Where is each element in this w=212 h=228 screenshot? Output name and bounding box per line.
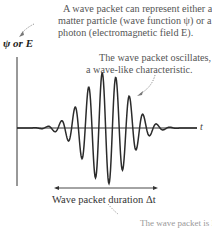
pointer-arrow-icon <box>140 75 155 94</box>
arrow-right-icon <box>153 186 158 190</box>
arrowhead-icon <box>137 91 143 96</box>
bottom-annotation-partial: The wave packet is localized <box>140 218 212 228</box>
arrow-left-icon <box>54 186 59 190</box>
wave-packet-diagram <box>0 0 212 228</box>
pointer-arrow-icon <box>108 204 118 214</box>
